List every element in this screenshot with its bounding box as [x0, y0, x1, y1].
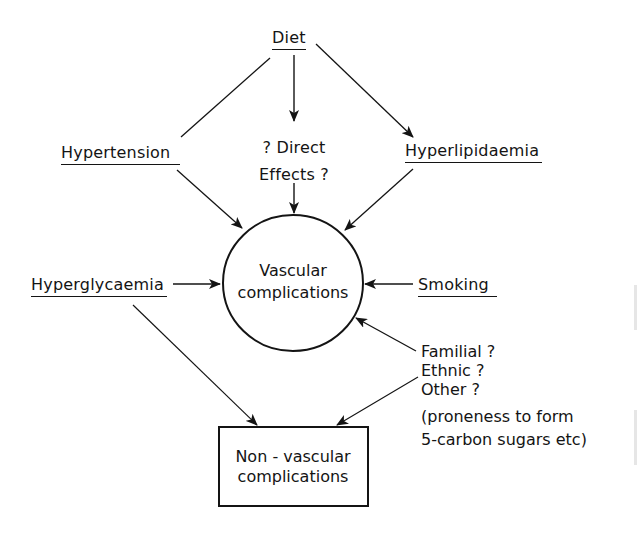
factor-ethnic: Ethnic ?: [421, 361, 587, 380]
edge-diet-hypertension: [181, 58, 270, 137]
node-diet-label: Diet: [272, 28, 306, 47]
edge-familial-vascular: [356, 318, 416, 351]
edge-hypertension-vascular: [177, 170, 242, 228]
node-vascular-line2: complications: [223, 282, 363, 304]
node-vascular-complications: Vascular complications: [223, 260, 363, 304]
node-other-factors: Familial ? Ethnic ? Other ? (proneness t…: [421, 342, 587, 451]
node-direct-effects: ? Direct Effects ?: [248, 134, 340, 188]
node-non-vascular-line2: complications: [218, 467, 368, 487]
edge-hyperlipidaemia-vascular: [345, 169, 413, 230]
factor-note-line2: 5-carbon sugars etc): [421, 428, 587, 451]
node-vascular-line1: Vascular: [223, 260, 363, 282]
factor-note: (proneness to form 5-carbon sugars etc): [421, 405, 587, 451]
node-hyperglycaemia: Hyperglycaemia: [31, 276, 167, 297]
node-hyperlipidaemia-label: Hyperlipidaemia: [405, 141, 539, 160]
diagram-canvas: Diet Hypertension ? Direct Effects ? Hyp…: [0, 0, 637, 534]
node-smoking: Smoking: [418, 276, 497, 297]
node-non-vascular-line1: Non - vascular: [218, 447, 368, 467]
node-direct-effects-line1: ? Direct: [248, 134, 340, 161]
node-hypertension-label: Hypertension: [61, 143, 170, 162]
factor-other: Other ?: [421, 380, 587, 399]
node-diet: Diet: [272, 29, 306, 50]
factor-familial: Familial ?: [421, 342, 587, 361]
node-hyperglycaemia-label: Hyperglycaemia: [31, 275, 164, 294]
edge-diet-hyperlipidaemia: [316, 44, 413, 137]
node-hypertension: Hypertension: [61, 144, 180, 165]
node-direct-effects-line2: Effects ?: [248, 161, 340, 188]
edge-other-nonvascular: [337, 377, 418, 425]
factor-note-line1: (proneness to form: [421, 405, 587, 428]
node-hyperlipidaemia: Hyperlipidaemia: [405, 142, 542, 163]
edge-hyperglycaemia-nonvascular: [133, 305, 257, 425]
node-non-vascular-complications: Non - vascular complications: [218, 447, 368, 487]
node-smoking-label: Smoking: [418, 275, 489, 294]
